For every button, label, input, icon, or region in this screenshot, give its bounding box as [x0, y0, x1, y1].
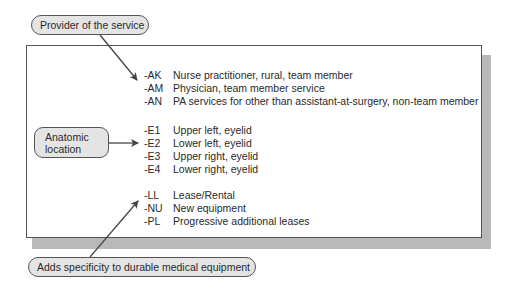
arrow-provider-icon — [100, 35, 137, 80]
arrow-dme-icon — [90, 201, 138, 257]
arrows — [0, 0, 512, 289]
